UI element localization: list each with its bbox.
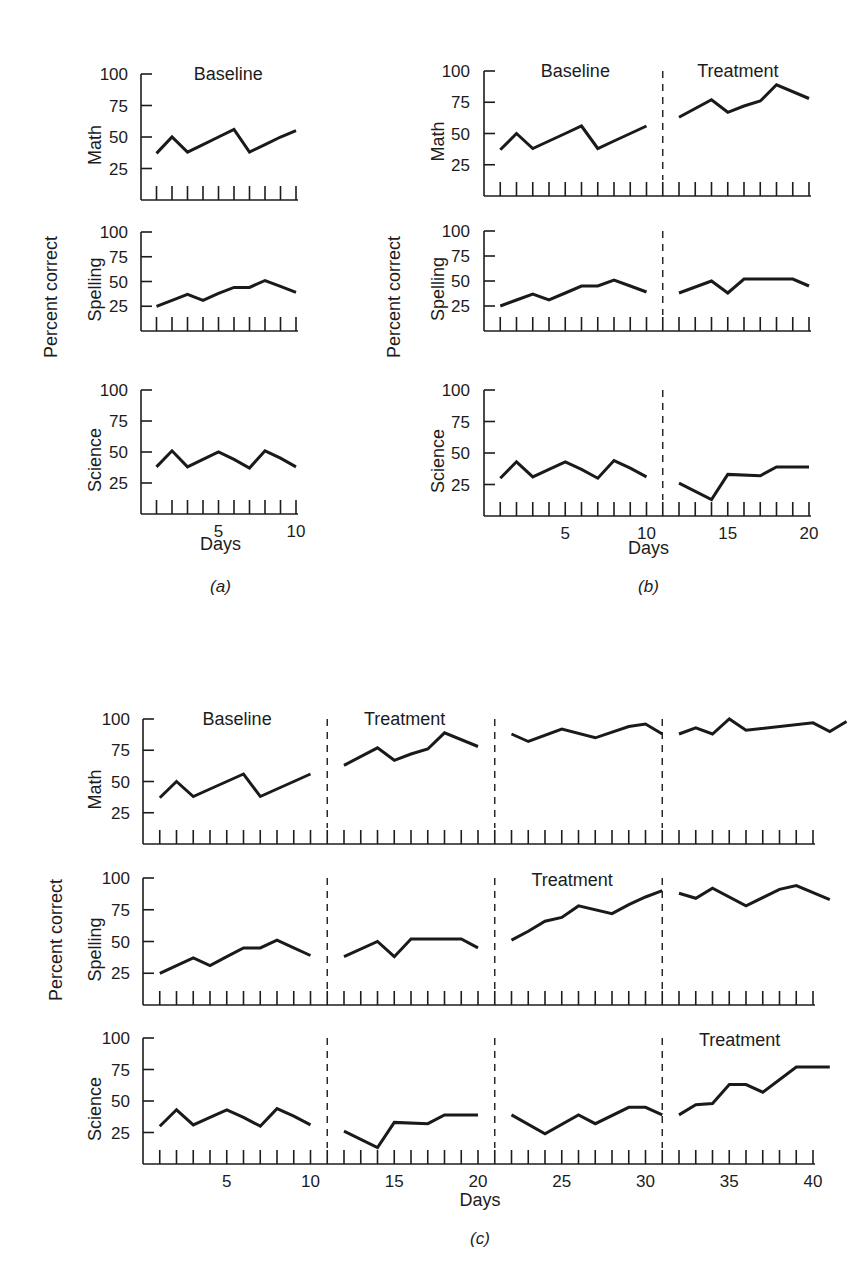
data-line [679,1067,830,1115]
x-tick-label: 10 [301,1172,320,1191]
row-label-spelling: Spelling [85,917,105,981]
row-label-math: Math [85,769,105,809]
panel-b: 255075100MathBaselineTreatment255075100S… [384,61,818,596]
data-line [344,1115,478,1148]
data-line [500,280,646,306]
y-tick-label: 25 [111,804,130,823]
y-tick-label: 25 [109,160,128,179]
y-tick-label: 50 [111,933,130,952]
data-line [512,724,663,742]
row-science: 255075100Science [85,381,298,514]
y-axis-title: Percent correct [46,879,66,1001]
y-tick-label: 100 [102,869,130,888]
row-science: 255075100ScienceTreatment [85,1029,830,1164]
y-tick-label: 50 [451,272,470,291]
row-label-science: Science [85,1077,105,1141]
y-tick-label: 75 [451,247,470,266]
y-tick-label: 50 [109,273,128,292]
y-tick-label: 100 [442,222,470,241]
y-tick-label: 25 [451,297,470,316]
phase-label-baseline: Baseline [203,709,272,729]
data-line [679,719,847,734]
row-label-math: Math [428,121,448,161]
y-tick-label: 100 [442,62,470,81]
y-tick-label: 25 [111,1124,130,1143]
x-axis-title: Days [628,538,669,558]
y-tick-label: 50 [109,128,128,147]
y-tick-label: 25 [111,964,130,983]
data-line [679,85,809,118]
y-tick-label: 100 [100,65,128,84]
y-tick-label: 50 [111,1092,130,1111]
phase-label-baseline: Baseline [541,61,610,81]
y-tick-label: 100 [100,223,128,242]
y-tick-label: 75 [111,1061,130,1080]
panel-c: 255075100MathBaselineTreatment255075100S… [46,709,847,1248]
panel-caption: (b) [638,577,659,596]
data-line [679,467,809,500]
row-label-spelling: Spelling [85,257,105,321]
data-line [160,940,311,973]
data-line [160,774,311,798]
y-tick-label: 50 [109,443,128,462]
phase-label-treatment: Treatment [699,1030,780,1050]
y-axis-title: Percent correct [384,236,404,358]
y-tick-label: 25 [451,156,470,175]
row-label-science: Science [85,428,105,492]
y-tick-label: 25 [451,476,470,495]
y-tick-label: 100 [102,1029,130,1048]
x-tick-label: 35 [720,1172,739,1191]
panel-a: 255075100MathBaseline255075100Spelling25… [41,64,305,596]
y-tick-label: 25 [109,474,128,493]
data-line [344,733,478,766]
data-line [157,451,297,468]
data-line [512,1107,663,1134]
panel-caption: (a) [210,577,231,596]
phase-label-baseline: Baseline [194,64,263,84]
y-tick-label: 75 [111,901,130,920]
row-spelling: 255075100Spelling [428,222,811,331]
x-tick-label: 20 [800,524,819,543]
y-tick-label: 50 [451,125,470,144]
data-line [157,129,297,153]
y-tick-label: 100 [442,381,470,400]
row-science: 255075100Science [428,381,811,516]
x-tick-label: 10 [287,522,306,541]
x-tick-label: 25 [552,1172,571,1191]
row-spelling: 255075100SpellingTreatment [85,869,830,1005]
x-tick-label: 20 [469,1172,488,1191]
x-tick-label: 15 [385,1172,404,1191]
data-line [500,461,646,479]
x-axis-title: Days [200,534,241,554]
row-math: 255075100MathBaselineTreatment [85,709,847,844]
x-tick-label: 40 [804,1172,823,1191]
figure-canvas: 255075100MathBaseline255075100Spelling25… [0,0,866,1270]
row-label-math: Math [85,125,105,165]
y-tick-label: 75 [451,93,470,112]
phase-label-treatment: Treatment [531,870,612,890]
data-line [679,886,830,906]
row-label-science: Science [428,429,448,493]
data-line [500,126,646,150]
panel-caption: (c) [470,1229,490,1248]
row-spelling: 255075100Spelling [85,223,298,331]
phase-label-treatment: Treatment [697,61,778,81]
x-tick-label: 5 [561,524,570,543]
y-tick-label: 75 [111,741,130,760]
y-tick-label: 50 [111,773,130,792]
y-tick-label: 25 [109,297,128,316]
row-math: 255075100MathBaseline [85,64,298,200]
y-tick-label: 75 [109,97,128,116]
data-line [157,281,297,307]
phase-label-treatment: Treatment [364,709,445,729]
y-tick-label: 100 [100,381,128,400]
data-line [512,891,663,941]
data-line [679,279,809,293]
row-label-spelling: Spelling [428,257,448,321]
y-tick-label: 100 [102,710,130,729]
row-math: 255075100MathBaselineTreatment [428,61,811,196]
y-tick-label: 75 [109,412,128,431]
y-tick-label: 50 [451,444,470,463]
x-tick-label: 30 [636,1172,655,1191]
data-line [344,939,478,957]
